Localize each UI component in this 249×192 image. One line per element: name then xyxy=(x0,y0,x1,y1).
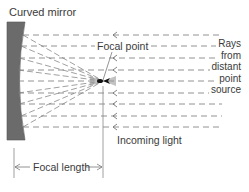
focal-point-marker xyxy=(90,76,116,86)
incoming-light-label: Incoming light xyxy=(117,135,182,146)
source-label-line: Rays xyxy=(216,38,241,50)
focal-length-label: Focal length xyxy=(33,162,90,173)
ray-source-label: Rays from distant point source xyxy=(209,38,241,96)
source-label-line: point xyxy=(217,73,241,85)
curved-mirror-label: Curved mirror xyxy=(9,7,76,18)
focal-point-leader xyxy=(103,52,112,80)
source-label-line: distant xyxy=(210,61,241,73)
source-label-line: source xyxy=(209,84,241,96)
focal-point-label: Focal point xyxy=(95,41,150,52)
source-label-line: from xyxy=(219,50,241,62)
